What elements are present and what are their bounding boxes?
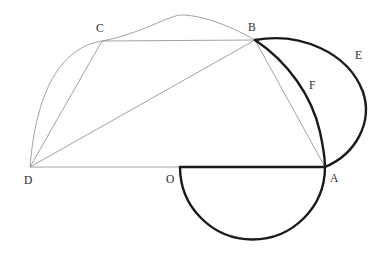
segment-BA-right-side: [255, 40, 325, 167]
arc-large-circumcircle-DCB: [30, 15, 255, 167]
vertex-label-C: C: [96, 22, 104, 34]
segment-CB-top: [102, 40, 255, 41]
arc-label-F: F: [309, 79, 315, 91]
vertex-label-B: B: [248, 21, 256, 33]
vertex-label-D: D: [24, 174, 32, 186]
arc-label-E: E: [355, 49, 362, 61]
vertex-label-A: A: [330, 172, 339, 184]
segment-DB-diagonal: [30, 40, 255, 167]
geometry-figure-canvas: A B C D O E F: [0, 0, 385, 260]
geometry-diagram: A B C D O E F: [0, 0, 385, 260]
arc-semicircle-OA-lower: [180, 167, 325, 240]
vertex-label-O: O: [166, 173, 174, 185]
